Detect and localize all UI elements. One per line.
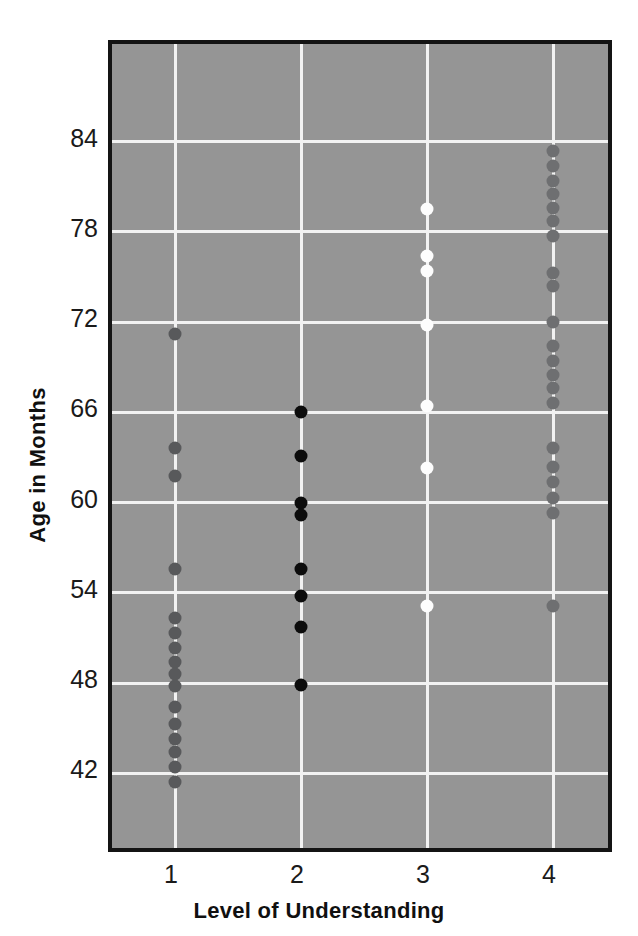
data-point	[547, 397, 560, 410]
data-point	[421, 319, 434, 332]
data-point	[421, 600, 434, 613]
data-point	[547, 442, 560, 455]
data-point	[547, 340, 560, 353]
data-point	[547, 174, 560, 187]
plot-frame	[108, 40, 612, 852]
data-point	[547, 230, 560, 243]
data-point	[169, 701, 182, 714]
x-tick-label: 3	[393, 860, 453, 889]
data-point	[169, 612, 182, 625]
y-axis-title: Age in Months	[25, 365, 51, 565]
y-tick-label: 78	[40, 213, 98, 242]
gridline-horizontal	[112, 411, 608, 414]
data-point	[547, 382, 560, 395]
data-point	[547, 475, 560, 488]
data-point	[169, 642, 182, 655]
data-point	[547, 316, 560, 329]
data-point	[421, 250, 434, 263]
data-point	[421, 203, 434, 216]
plot-area	[112, 44, 608, 848]
data-point	[547, 355, 560, 368]
y-tick-label: 72	[40, 304, 98, 333]
data-point	[547, 507, 560, 520]
data-point	[169, 746, 182, 759]
data-point	[295, 621, 308, 634]
gridline-horizontal	[112, 772, 608, 775]
data-point	[169, 732, 182, 745]
gridline-horizontal	[112, 321, 608, 324]
gridline-vertical	[300, 44, 303, 848]
data-point	[295, 508, 308, 521]
data-point	[547, 492, 560, 505]
data-point	[421, 400, 434, 413]
data-point	[295, 678, 308, 691]
gridline-horizontal	[112, 591, 608, 594]
x-axis-title: Level of Understanding	[0, 898, 638, 924]
gridline-vertical	[426, 44, 429, 848]
data-point	[547, 600, 560, 613]
data-point	[547, 215, 560, 228]
y-tick-label: 42	[40, 755, 98, 784]
data-point	[547, 280, 560, 293]
data-point	[169, 627, 182, 640]
data-point	[421, 265, 434, 278]
data-point	[547, 460, 560, 473]
y-tick-label: 84	[40, 123, 98, 152]
data-point	[169, 680, 182, 693]
y-tick-label: 48	[40, 665, 98, 694]
data-point	[169, 717, 182, 730]
x-tick-label: 4	[519, 860, 579, 889]
data-point	[547, 188, 560, 201]
data-point	[295, 562, 308, 575]
data-point	[169, 761, 182, 774]
data-point	[547, 159, 560, 172]
data-point	[295, 450, 308, 463]
data-point	[547, 201, 560, 214]
data-point	[169, 562, 182, 575]
x-tick-label: 2	[267, 860, 327, 889]
data-point	[169, 328, 182, 341]
data-point	[421, 462, 434, 475]
data-point	[169, 776, 182, 789]
data-point	[169, 469, 182, 482]
gridline-horizontal	[112, 140, 608, 143]
gridline-horizontal	[112, 501, 608, 504]
gridline-horizontal	[112, 682, 608, 685]
data-point	[169, 442, 182, 455]
data-point	[547, 266, 560, 279]
y-tick-label: 54	[40, 574, 98, 603]
gridline-horizontal	[112, 230, 608, 233]
scatter-plot-figure: 8478726660544842 1234 Age in Months Leve…	[0, 0, 638, 936]
x-tick-label: 1	[141, 860, 201, 889]
data-point	[547, 144, 560, 157]
data-point	[547, 368, 560, 381]
data-point	[295, 589, 308, 602]
data-point	[295, 406, 308, 419]
